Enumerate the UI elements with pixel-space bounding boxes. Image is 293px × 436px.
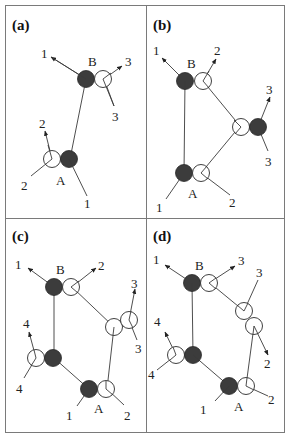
- panel-label-c: (c): [12, 228, 29, 245]
- vector-label: 2: [98, 258, 105, 273]
- vector-label: 3: [266, 82, 273, 97]
- vector-label: 2: [21, 178, 28, 193]
- vector-label: 1: [66, 408, 73, 423]
- filled-atom-b: [46, 279, 63, 296]
- panel-b: (b) 1 B 2 3 3 1 A 2: [153, 17, 273, 215]
- vector-label: 1: [15, 257, 22, 272]
- node-label-b: B: [88, 54, 97, 69]
- vector-overlay: [51, 57, 86, 79]
- vector-label: 3: [112, 109, 119, 124]
- vector-label: 1: [84, 196, 91, 211]
- bond-b-a: [184, 81, 185, 173]
- vector-label: 2: [214, 43, 221, 58]
- vector-label: 1: [156, 200, 163, 215]
- vector-label: 3: [256, 265, 263, 280]
- vector-label: 2: [124, 408, 131, 423]
- node-label-b: B: [56, 262, 65, 277]
- panel-label-d: (d): [153, 228, 171, 245]
- vector-label: 2: [39, 116, 46, 131]
- node-label-a: A: [94, 401, 104, 416]
- panel-label-b: (b): [153, 17, 171, 34]
- vector-label: 2: [264, 356, 271, 371]
- bond-b-left: [192, 283, 193, 355]
- vector-label: 2: [268, 392, 275, 407]
- vector-label: 4: [16, 381, 23, 396]
- node-label-a: A: [234, 399, 244, 414]
- vector-label: 1: [200, 402, 207, 417]
- bond-b-a: [70, 79, 86, 159]
- panel-label-a: (a): [12, 17, 30, 34]
- node-label-a: A: [188, 186, 198, 201]
- vector-label: 4: [23, 316, 30, 331]
- filled-atom-a: [176, 165, 193, 182]
- vector-label: 3: [135, 341, 142, 356]
- vector-label: 4: [154, 314, 161, 329]
- vector-label: 1: [153, 252, 160, 267]
- figure-canvas: (a) 1 B 3 3 2 2 A 1 (b): [0, 0, 293, 436]
- panel-c: (c) 1 B 2 3: [12, 228, 142, 423]
- vector-line-1: [69, 159, 87, 196]
- vector-label: 1: [41, 46, 48, 61]
- vector-label: 4: [148, 367, 155, 382]
- node-label-a: A: [56, 173, 66, 188]
- vector-label: 3: [238, 253, 245, 268]
- filled-atom-a: [81, 381, 98, 398]
- node-label-b: B: [195, 258, 204, 273]
- panel-a: (a) 1 B 3 3 2 2 A 1: [12, 17, 132, 211]
- vector-line-2: [31, 159, 52, 176]
- node-label-b: B: [187, 56, 196, 71]
- panel-d: (d) 1: [148, 228, 275, 417]
- vector-label: 2: [229, 195, 236, 210]
- bond-right-a: [107, 327, 114, 389]
- filled-atom: [250, 119, 267, 136]
- vector-label: 1: [153, 43, 160, 58]
- vector-label: 3: [131, 276, 138, 291]
- bond-right-a: [246, 326, 254, 386]
- vector-label: 3: [125, 54, 132, 69]
- filled-atom: [45, 350, 62, 367]
- vector-label: 3: [265, 154, 272, 169]
